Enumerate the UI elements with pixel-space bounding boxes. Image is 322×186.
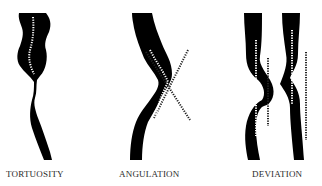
angulation-vessel — [130, 13, 190, 160]
label-deviation: DEVIATION — [252, 169, 302, 179]
deviation-vessel-left — [244, 13, 274, 160]
label-angulation: ANGULATION — [119, 169, 180, 179]
deviation-vessel-right — [280, 13, 306, 160]
vessel-diagram — [0, 0, 322, 186]
label-tortuosity: TORTUOSITY — [6, 169, 64, 179]
tortuosity-vessel — [17, 13, 52, 160]
